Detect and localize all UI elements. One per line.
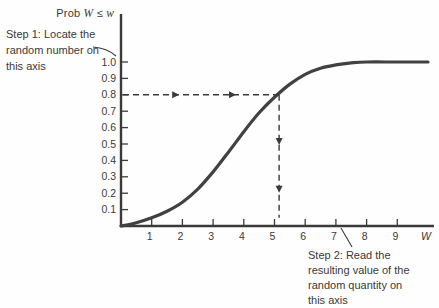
x-tick-label: 1	[147, 230, 153, 242]
y-tick-label: 0.6	[101, 121, 116, 133]
x-axis-variable-label: W	[421, 230, 432, 242]
x-tick-label: 7	[331, 230, 337, 242]
y-tick-label: 0.1	[101, 203, 116, 215]
y-tick-label: 0.2	[101, 187, 116, 199]
y-tick-label: 0.4	[101, 154, 116, 166]
arrowhead-down-icon	[276, 138, 283, 145]
x-tick-label: 9	[392, 230, 398, 242]
y-tick-label: 0.3	[101, 170, 116, 182]
x-tick-label: 5	[270, 230, 276, 242]
x-tick-label: 6	[300, 230, 306, 242]
y-axis-title-var-w: w	[106, 7, 114, 19]
y-tick-label: 0.8	[101, 88, 116, 100]
step2-leader-line	[341, 228, 352, 247]
y-axis-title-var-W: W	[84, 7, 94, 19]
arrowhead-right-icon	[229, 91, 236, 98]
y-axis-title: Prob W ≤ w	[0, 7, 114, 19]
x-tick-label: 2	[177, 230, 183, 242]
cdf-curve	[121, 62, 428, 226]
arrowhead-down-icon	[276, 186, 283, 193]
y-tick-label: 0.5	[101, 138, 116, 150]
step1-annotation: Step 1: Locate the random number on this…	[6, 26, 126, 74]
y-tick-label: 0.7	[101, 105, 116, 117]
y-axis-title-prob: Prob	[56, 7, 83, 19]
x-tick-label: 4	[239, 230, 245, 242]
y-axis-title-leq: ≤	[93, 7, 106, 19]
x-tick-label: 3	[208, 230, 214, 242]
step2-annotation: Step 2: Read the resulting value of the …	[308, 248, 438, 308]
arrowhead-right-icon	[172, 91, 179, 98]
x-tick-label: 8	[362, 230, 368, 242]
